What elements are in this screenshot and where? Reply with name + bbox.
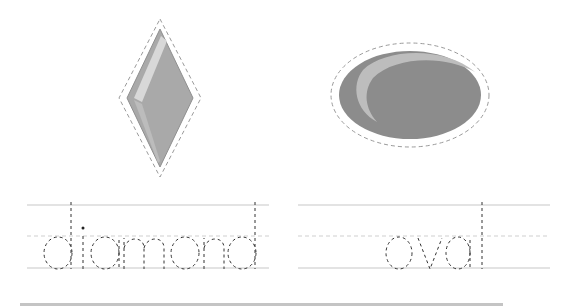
tracing-area-oval [298, 198, 553, 273]
tracing-area-diamond [27, 198, 272, 273]
oval-icon [325, 40, 495, 165]
i-dot [82, 227, 85, 230]
diamond-icon [90, 15, 230, 180]
diamond-shape-card [90, 15, 230, 180]
oval-shape-card [325, 40, 495, 165]
